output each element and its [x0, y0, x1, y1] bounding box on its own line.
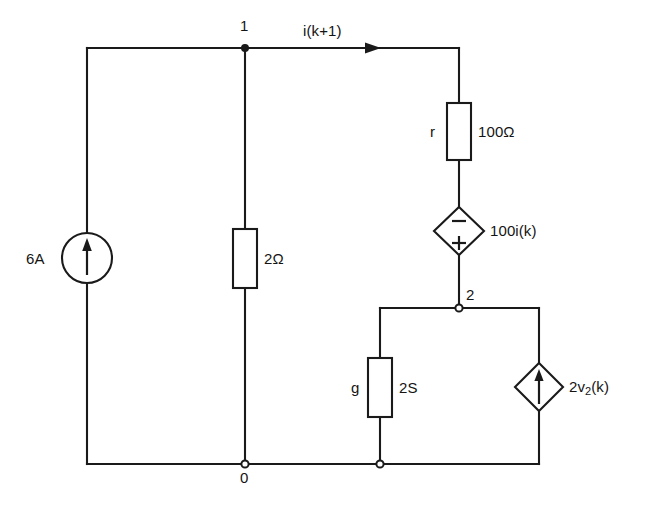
node-1-label: 1: [240, 18, 248, 33]
current-source-6a-symbol[interactable]: [62, 233, 112, 283]
node-0-label: 0: [240, 470, 248, 485]
branch-current-arrow-icon: [365, 43, 381, 54]
circuit-diagram-canvas: 1 2 0 i(k+1) 6A 2Ω r 100Ω 100i(k) g 2S 2…: [0, 0, 648, 510]
ccs-2v2k-symbol[interactable]: [515, 363, 563, 411]
resistor-r-value: 100Ω: [478, 124, 515, 139]
branch-current-label: i(k+1): [303, 23, 342, 38]
ccs-2v2k-value: 2v2(k): [569, 379, 609, 397]
resistor-r-100ohm-symbol[interactable]: [447, 103, 471, 160]
node-0-marker: [241, 460, 248, 467]
node-2-marker: [455, 304, 462, 311]
node-0-junction-marker: [376, 460, 383, 467]
resistor-2ohm-symbol[interactable]: [233, 229, 257, 288]
conductance-g-value: 2S: [399, 380, 418, 395]
vcvs-100ik-value: 100i(k): [490, 223, 537, 238]
ccs-value-prefix: 2v: [569, 378, 585, 395]
current-source-6a-label: 6A: [26, 251, 45, 266]
node-1-marker: [242, 45, 248, 51]
resistor-2ohm-value: 2Ω: [264, 251, 284, 266]
resistor-r-designator: r: [430, 124, 435, 139]
conductance-g-2s-symbol[interactable]: [368, 358, 392, 417]
vcvs-100ik-symbol[interactable]: [434, 207, 484, 255]
conductance-g-designator: g: [351, 380, 359, 395]
ccs-value-suffix: (k): [591, 378, 609, 395]
node-2-label: 2: [466, 287, 474, 302]
circuit-schematic-svg: [0, 0, 648, 510]
